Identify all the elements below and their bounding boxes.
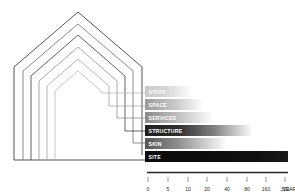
bar-label-services: SERVICES bbox=[149, 115, 177, 121]
diagram-canvas: STUFF SPACE SERVICES STRUCTURE SKIN SITE bbox=[0, 0, 295, 196]
bar-label-skin: SKIN bbox=[149, 141, 162, 147]
axis-tick-labels: 0 5 10 20 40 80 160 320 bbox=[147, 186, 290, 192]
axis-label-20: 20 bbox=[204, 186, 210, 192]
axis-unit-label: YEARS bbox=[283, 186, 295, 192]
bar-label-structure: STRUCTURE bbox=[149, 128, 183, 134]
shearing-layers-diagram: STUFF SPACE SERVICES STRUCTURE SKIN SITE bbox=[0, 0, 295, 196]
axis-label-5: 5 bbox=[167, 186, 170, 192]
bar-label-stuff: STUFF bbox=[149, 89, 167, 95]
axis-label-160: 160 bbox=[262, 186, 271, 192]
house-outline-group bbox=[14, 12, 145, 160]
bar-label-space: SPACE bbox=[149, 102, 168, 108]
axis-label-10: 10 bbox=[185, 186, 191, 192]
structure-outline bbox=[31, 35, 145, 160]
axis-label-0: 0 bbox=[147, 186, 150, 192]
skin-outline bbox=[23, 24, 145, 160]
stuff-outline bbox=[55, 71, 145, 160]
space-outline bbox=[47, 59, 145, 160]
bar-group: STUFF SPACE SERVICES STRUCTURE SKIN SITE bbox=[145, 86, 288, 162]
bar-label-site: SITE bbox=[149, 154, 162, 160]
time-axis: 0 5 10 20 40 80 160 320 YEARS bbox=[147, 173, 295, 192]
axis-label-40: 40 bbox=[224, 186, 230, 192]
bar-site[interactable] bbox=[145, 151, 288, 162]
axis-ticks bbox=[148, 177, 285, 182]
axis-label-80: 80 bbox=[244, 186, 250, 192]
